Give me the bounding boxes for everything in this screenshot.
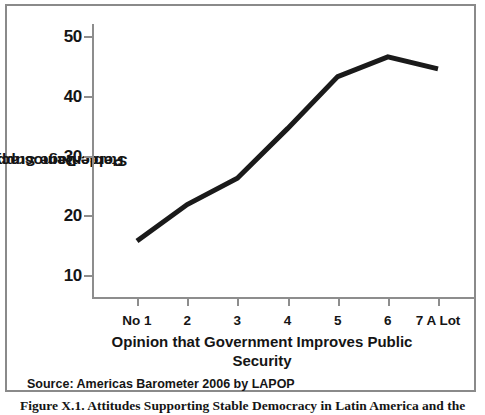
x-axis-title-line1: Opinion that Government Improves Public: [67, 332, 457, 351]
x-axis-tick-mark: [288, 299, 290, 306]
y-axis-tick-label: 10: [64, 266, 82, 286]
x-axis-tick-label: 2: [183, 313, 191, 328]
x-axis-tick-label: 4: [284, 313, 292, 328]
x-axis-tick-mark: [237, 299, 239, 306]
y-axis-tick-label: 40: [64, 87, 82, 107]
y-axis-title: Percentage Support toward Stable Democra…: [21, 24, 61, 299]
y-axis-tick-mark: [84, 156, 92, 158]
source-note: Source: Americas Barometer 2006 by LAPOP: [27, 377, 295, 391]
x-axis-tick-mark: [388, 299, 390, 306]
y-axis-tick-label: 30: [64, 147, 82, 167]
x-axis-tick-mark: [187, 299, 189, 306]
x-axis-tick-mark: [137, 299, 139, 306]
x-axis-tick-mark: [338, 299, 340, 306]
y-axis-tick-label: 50: [64, 27, 82, 47]
x-axis-tick-label: 6: [384, 313, 392, 328]
series-line-support: [137, 57, 438, 241]
x-axis-tick-mark: [438, 299, 440, 306]
y-axis-tick-label: 20: [64, 206, 82, 226]
chart-frame: Percentage Support toward Stable Democra…: [5, 4, 476, 392]
x-axis-tick-label: 7 A Lot: [416, 313, 461, 328]
x-axis-tick-label: No 1: [122, 313, 151, 328]
line-series-plot: [92, 24, 475, 299]
y-axis-tick-mark: [84, 36, 92, 38]
y-axis-tick-mark: [84, 215, 92, 217]
x-axis-tick-label: 3: [234, 313, 242, 328]
x-axis-title: Opinion that Government Improves Public …: [67, 332, 457, 370]
x-axis-title-line2: Security: [67, 351, 457, 370]
plot-area: 1020304050 No 1234567 A Lot: [92, 24, 475, 299]
y-axis-tick-mark: [84, 96, 92, 98]
y-axis-tick-mark: [84, 275, 92, 277]
figure-caption: Figure X.1. Attitudes Supporting Stable …: [20, 398, 475, 414]
figure-root: Percentage Support toward Stable Democra…: [0, 0, 485, 415]
x-axis-tick-label: 5: [334, 313, 342, 328]
